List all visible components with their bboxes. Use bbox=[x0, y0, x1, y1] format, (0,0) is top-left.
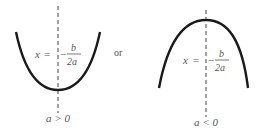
condition-right: a < 0 bbox=[194, 116, 218, 128]
parabola-diagram: x = − b 2a a > 0 or x = − b 2a a < 0 bbox=[0, 0, 261, 138]
formula-minus-left: − bbox=[60, 48, 66, 60]
upward-parabola-curve bbox=[16, 32, 100, 90]
formula-eq-left: = bbox=[44, 48, 50, 60]
formula-num-right: b bbox=[219, 48, 224, 59]
formula-num-left: b bbox=[71, 42, 76, 53]
figure-downward-parabola: x = − b 2a a < 0 bbox=[159, 10, 248, 128]
formula-eq-right: = bbox=[193, 54, 199, 66]
figure-upward-parabola: x = − b 2a a > 0 bbox=[16, 6, 100, 124]
condition-left: a > 0 bbox=[46, 112, 70, 124]
formula-var-right: x bbox=[182, 54, 188, 66]
formula-var-left: x bbox=[34, 48, 40, 60]
downward-parabola-curve bbox=[159, 20, 248, 88]
formula-den-right: 2a bbox=[215, 62, 225, 73]
formula-minus-right: − bbox=[208, 54, 214, 66]
connector-or: or bbox=[114, 47, 123, 58]
formula-den-left: 2a bbox=[67, 56, 77, 67]
